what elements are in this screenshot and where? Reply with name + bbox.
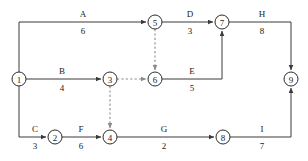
node-7-label: 7: [220, 18, 225, 28]
edge-label-B-name: B: [59, 66, 65, 76]
node-7[interactable]: 7: [215, 15, 229, 29]
edge-label-E-duration: 5: [190, 83, 195, 93]
node-8[interactable]: 8: [216, 130, 230, 144]
node-2-label: 2: [53, 133, 58, 143]
node-1-label: 1: [17, 75, 22, 85]
edge-label-A-name: A: [80, 9, 87, 19]
node-9[interactable]: 9: [284, 72, 298, 86]
edge-label-H-duration: 8: [260, 26, 265, 36]
network-diagram-svg: A 6 B 4 C 3 D 3 E 5 F 6 G 2 H 8 I 7 1 2 …: [0, 0, 308, 161]
edge-label-E-name: E: [189, 66, 195, 76]
node-3[interactable]: 3: [103, 72, 117, 86]
node-4[interactable]: 4: [103, 130, 117, 144]
node-9-label: 9: [289, 75, 294, 85]
edge-label-A-duration: 6: [81, 26, 86, 36]
edge-label-G-name: G: [161, 124, 168, 134]
edge-label-F-name: F: [78, 124, 83, 134]
node-6-label: 6: [153, 75, 158, 85]
node-4-label: 4: [108, 133, 113, 143]
node-3-label: 3: [108, 75, 113, 85]
node-2[interactable]: 2: [48, 130, 62, 144]
edge-label-H-name: H: [259, 9, 266, 19]
edge-label-G-duration: 2: [162, 141, 167, 151]
edge-label-I-duration: 7: [260, 141, 265, 151]
edge-label-F-duration: 6: [79, 141, 84, 151]
edge-label-C-duration: 3: [33, 141, 38, 151]
node-8-label: 8: [221, 133, 226, 143]
node-5[interactable]: 5: [148, 15, 162, 29]
node-6[interactable]: 6: [148, 72, 162, 86]
node-5-label: 5: [153, 18, 158, 28]
node-1[interactable]: 1: [12, 72, 26, 86]
edge-label-D-name: D: [187, 9, 194, 19]
edge-label-D-duration: 3: [188, 26, 193, 36]
edge-label-B-duration: 4: [60, 83, 65, 93]
network-diagram-canvas: A 6 B 4 C 3 D 3 E 5 F 6 G 2 H 8 I 7 1 2 …: [0, 0, 308, 161]
edge-label-C-name: C: [32, 124, 38, 134]
edge-label-I-name: I: [261, 124, 264, 134]
